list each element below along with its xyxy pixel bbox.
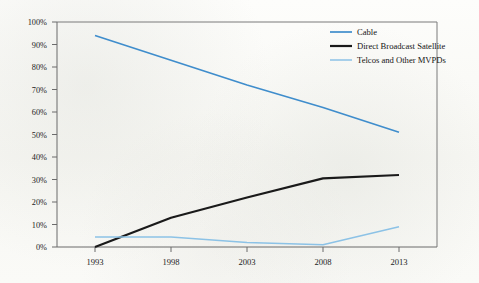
y-axis-ticks: 100% 90% 80% 70% 60% 50% 40% 30% 20% 10%…	[28, 18, 57, 252]
series-group	[95, 36, 399, 248]
legend-label-direct-broadcast-satellite[interactable]: Direct Broadcast Satellite	[357, 41, 445, 51]
xtick-label-2003: 2003	[238, 257, 255, 267]
ytick-label-20: 20%	[32, 198, 47, 207]
xtick-label-1998: 1998	[162, 257, 179, 267]
ytick-label-90: 90%	[32, 41, 47, 50]
series-line-cable[interactable]	[95, 36, 399, 133]
chart-legend: Cable Direct Broadcast Satellite Telcos …	[330, 27, 447, 65]
line-chart-figure: 100% 90% 80% 70% 60% 50% 40% 30% 20% 10%…	[0, 0, 479, 283]
ytick-label-10: 10%	[32, 221, 47, 230]
ytick-label-30: 30%	[32, 176, 47, 185]
ytick-label-50: 50%	[32, 131, 47, 140]
ytick-label-70: 70%	[32, 86, 47, 95]
ytick-label-100: 100%	[28, 18, 47, 27]
ytick-label-0: 0%	[36, 243, 47, 252]
xtick-label-2008: 2008	[314, 257, 331, 267]
x-axis-ticks: 1993 1998 2003 2008 2013	[86, 247, 407, 267]
xtick-label-1993: 1993	[86, 257, 103, 267]
legend-label-cable[interactable]: Cable	[357, 27, 377, 37]
chart-canvas: 100% 90% 80% 70% 60% 50% 40% 30% 20% 10%…	[0, 0, 479, 283]
xtick-label-2013: 2013	[390, 257, 407, 267]
ytick-label-80: 80%	[32, 63, 47, 72]
ytick-label-60: 60%	[32, 108, 47, 117]
ytick-label-40: 40%	[32, 153, 47, 162]
legend-label-telcos-and-other-mvpds[interactable]: Telcos and Other MVPDs	[357, 55, 447, 65]
